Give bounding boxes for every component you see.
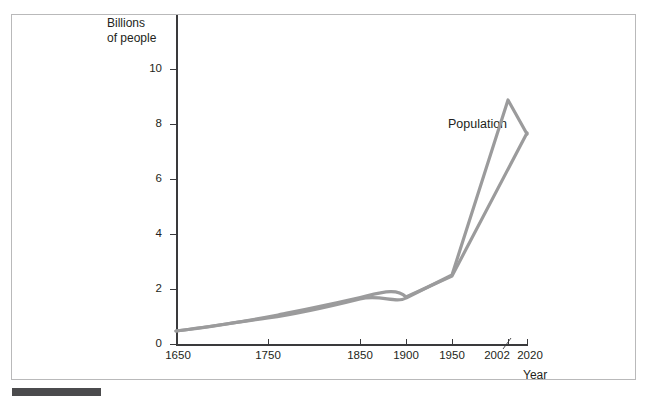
leader-line-2002 [503,338,511,349]
population-line [176,100,527,331]
population-curve-svg [0,0,648,398]
chart-page: Billions of people 0 2 4 6 8 10 1650 175… [0,0,648,398]
bottom-accent-bar [12,388,101,396]
plot-area: Billions of people 0 2 4 6 8 10 1650 175… [0,0,648,398]
